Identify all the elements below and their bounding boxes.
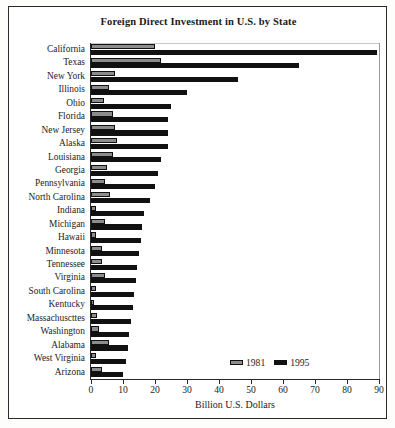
bar-row: [91, 177, 379, 190]
bar-1995: [91, 238, 141, 243]
legend-item: 1995: [274, 357, 309, 368]
category-label: Georgia: [17, 164, 88, 177]
bar-1995: [91, 278, 136, 283]
category-label: North Carolina: [17, 191, 88, 204]
bar-row: [91, 285, 379, 298]
category-label: Tennessee: [17, 258, 88, 271]
category-label: Illinois: [17, 83, 88, 96]
x-tick-label: 70: [310, 384, 320, 395]
bar-1981: [91, 58, 161, 63]
bar-1995: [91, 171, 158, 176]
bar-row: [91, 245, 379, 258]
bar-1995: [91, 104, 171, 109]
category-label: Minnesota: [17, 245, 88, 258]
legend-swatch-icon: [274, 360, 287, 365]
legend-label: 1981: [246, 357, 265, 368]
bar-row: [91, 312, 379, 325]
bar-1981: [91, 111, 113, 116]
category-label: South Carolina: [17, 285, 88, 298]
bar-row: [91, 110, 379, 123]
legend-swatch-icon: [230, 360, 243, 365]
bar-1981: [91, 246, 102, 251]
bar-row: [91, 258, 379, 271]
bar-1995: [91, 345, 128, 350]
bar-1981: [91, 326, 99, 331]
bar-1981: [91, 232, 96, 237]
bar-1995: [91, 359, 126, 364]
bar-row: [91, 298, 379, 311]
bar-1995: [91, 305, 133, 310]
bar-1995: [91, 157, 161, 162]
category-label: New York: [17, 70, 88, 83]
category-label: Alabama: [17, 339, 88, 352]
bar-1995: [91, 372, 123, 377]
category-label: West Virginia: [17, 352, 88, 365]
bar-row: [91, 83, 379, 96]
bar-1995: [91, 332, 129, 337]
bar-row: [91, 56, 379, 69]
chart-legend: 19811995: [230, 355, 309, 369]
bar-1995: [91, 130, 168, 135]
bar-1981: [91, 179, 105, 184]
x-axis-title: Billion U.S. Dollars: [90, 399, 380, 410]
category-label: Michigan: [17, 218, 88, 231]
bar-1981: [91, 259, 102, 264]
bar-row: [91, 271, 379, 284]
bar-1981: [91, 192, 110, 197]
x-tick-label: 90: [374, 384, 384, 395]
bar-row: [91, 43, 379, 56]
bar-1981: [91, 340, 109, 345]
bar-1995: [91, 251, 139, 256]
category-label: Ohio: [17, 97, 88, 110]
x-tick-label: 80: [342, 384, 352, 395]
bar-1995: [91, 184, 155, 189]
category-label: New Jersey: [17, 124, 88, 137]
bar-1995: [91, 90, 187, 95]
bar-1981: [91, 219, 105, 224]
category-label: Louisiana: [17, 151, 88, 164]
bar-1995: [91, 319, 131, 324]
bar-1995: [91, 224, 142, 229]
category-label: Virginia: [17, 271, 88, 284]
bar-row: [91, 231, 379, 244]
bar-1981: [91, 300, 94, 305]
category-label: Arizona: [17, 366, 88, 379]
x-tick-label: 60: [278, 384, 288, 395]
bar-row: [91, 218, 379, 231]
bar-1995: [91, 144, 168, 149]
x-tick-label: 10: [118, 384, 128, 395]
bar-1981: [91, 85, 109, 90]
bar-row: [91, 151, 379, 164]
bar-1981: [91, 273, 105, 278]
category-label: Alaska: [17, 137, 88, 150]
bar-1995: [91, 198, 150, 203]
x-axis-tick-labels: 0102030405060708090: [90, 384, 380, 398]
bar-row: [91, 137, 379, 150]
bar-1995: [91, 211, 144, 216]
plot-right-border: [379, 43, 380, 379]
plot-area: [90, 43, 379, 379]
bar-row: [91, 97, 379, 110]
bar-row: [91, 325, 379, 338]
bar-row: [91, 164, 379, 177]
bar-1981: [91, 165, 107, 170]
bar-row: [91, 124, 379, 137]
x-tick-label: 20: [150, 384, 160, 395]
bar-1981: [91, 367, 102, 372]
bar-row: [91, 339, 379, 352]
bar-1981: [91, 353, 96, 358]
category-label: Massachuscttes: [17, 312, 88, 325]
category-label: California: [17, 43, 88, 56]
bar-1981: [91, 71, 115, 76]
bar-1981: [91, 313, 97, 318]
bar-1995: [91, 63, 299, 68]
bar-1981: [91, 44, 155, 49]
bar-rows: [91, 43, 379, 379]
legend-label: 1995: [290, 357, 309, 368]
category-label: Texas: [17, 56, 88, 69]
category-label: Hawaii: [17, 231, 88, 244]
bar-1981: [91, 125, 115, 130]
bar-1995: [91, 265, 137, 270]
bar-1995: [91, 77, 238, 82]
bar-1995: [91, 50, 377, 55]
